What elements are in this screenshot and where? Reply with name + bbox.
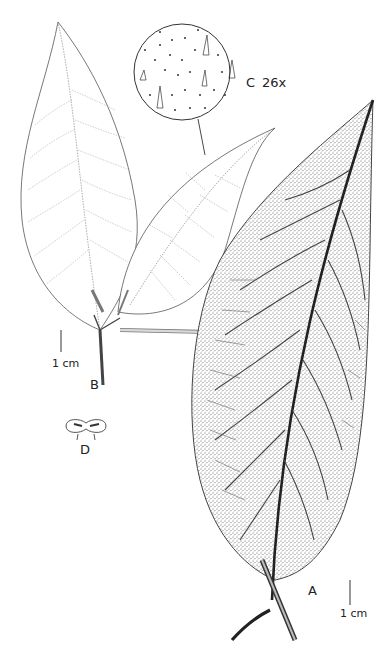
magnification-label: 26x: [262, 76, 286, 89]
botanical-plate: [0, 0, 391, 657]
scale-bar-label-b: 1 cm: [52, 358, 79, 369]
panel-label-a: A: [308, 584, 317, 597]
panel-label-b: B: [90, 378, 99, 391]
scale-bar-label-a: 1 cm: [340, 608, 367, 619]
panel-label-d: D: [80, 443, 90, 456]
panel-b-leaf-left: [21, 22, 137, 330]
panel-d-structure: [66, 420, 106, 440]
panel-c-magnified-surface: [134, 24, 235, 155]
panel-label-c: C: [246, 76, 255, 89]
